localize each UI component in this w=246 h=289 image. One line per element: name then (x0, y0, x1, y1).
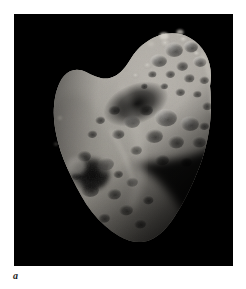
photo-frame (14, 14, 233, 266)
asteroid-photograph (14, 14, 233, 266)
figure-panel: a (0, 0, 246, 289)
panel-caption-label: a (13, 270, 18, 281)
